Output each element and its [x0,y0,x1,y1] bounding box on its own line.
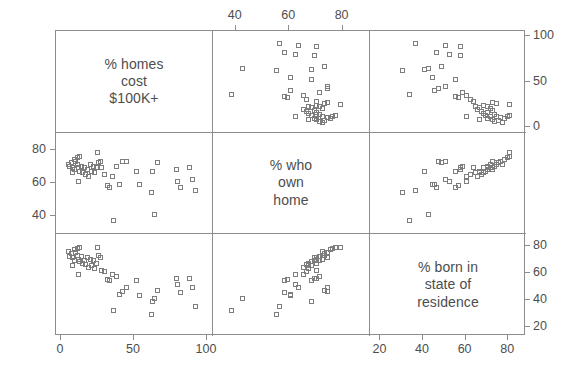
data-point [477,117,482,122]
data-point [175,179,180,184]
scatter-panel-bornstate-vs-ownhome [369,132,526,233]
data-point [274,312,279,317]
data-point [468,172,473,177]
variable-label-text: % born instate ofresidence [370,234,526,336]
data-point [413,188,418,193]
data-point [175,282,180,287]
data-point [322,64,327,69]
data-point [240,66,245,71]
data-point [322,288,327,293]
data-point [134,169,139,174]
data-point [481,103,486,108]
scatterplot-matrix-figure: % homescost$100K+% whoownhome% born inst… [0,0,582,379]
scatter-panel-cost100k-vs-bornstate [56,233,212,336]
data-point [494,101,499,106]
axis-tick [525,299,530,300]
data-point [107,185,112,190]
data-point [422,169,427,174]
data-point [117,292,122,297]
data-point [178,185,183,190]
data-point [407,218,412,223]
data-point [95,245,100,250]
data-point [407,92,412,97]
data-point [464,93,469,98]
data-point [477,169,482,174]
data-point [70,170,75,175]
tick-label-right-100: 100 [533,28,554,42]
tick-label-left-80: 80 [0,142,46,156]
axis-tick [133,335,134,340]
tick-label-right-0: 0 [533,119,540,133]
data-point [94,261,99,266]
data-point [443,43,448,48]
data-point [309,299,314,304]
data-point [490,100,495,105]
axis-tick [50,215,55,216]
data-point [117,182,122,187]
data-point [507,102,512,107]
data-point [86,174,91,179]
data-point [325,255,330,260]
tick-label-right-80: 80 [533,238,547,252]
data-point [102,172,107,177]
axis-tick [422,335,423,340]
tick-label-top-80: 80 [335,8,349,22]
data-point [426,212,431,217]
data-point [187,276,192,281]
data-point [288,88,293,93]
data-point [274,68,279,73]
data-point [174,276,179,281]
data-point [293,114,298,119]
data-point [282,290,287,295]
data-point [124,159,129,164]
tick-label-bottom-60: 60 [458,342,472,356]
data-point [314,268,319,273]
axis-tick [525,35,530,36]
data-point [333,113,338,118]
data-point [309,67,314,72]
data-point [422,67,427,72]
data-point [426,66,431,71]
data-point [193,304,198,309]
data-point [288,75,293,80]
scatter-panel-bornstate-vs-cost100k [369,31,526,132]
data-point [473,104,478,109]
data-point [77,245,82,250]
tick-label-left-40: 40 [0,208,46,222]
data-point [464,114,469,119]
data-point [240,296,245,301]
data-point [443,159,448,164]
data-point [439,160,444,165]
data-point [187,165,192,170]
data-point [296,285,301,290]
data-point [152,212,157,217]
data-point [439,64,444,69]
data-point [485,104,490,109]
data-point [443,177,448,182]
data-point [277,41,282,46]
data-point [400,68,405,73]
axis-tick [206,335,207,340]
axis-tick [50,182,55,183]
data-point [325,84,330,89]
data-point [494,160,499,165]
data-point [107,278,112,283]
data-point [95,150,100,155]
data-point [460,90,465,95]
data-point [481,165,486,170]
data-point [453,94,458,99]
data-point [111,218,116,223]
data-point [314,276,319,281]
tick-label-bottom-100: 100 [196,342,217,356]
data-point [293,272,298,277]
axis-tick [525,272,530,273]
axis-tick [525,245,530,246]
data-point [468,97,473,102]
data-point [453,77,458,82]
axis-tick [288,25,289,30]
data-point [434,50,439,55]
data-point [296,43,301,48]
tick-label-bottom-40: 40 [415,342,429,356]
axis-tick [379,335,380,340]
tick-label-right-60: 60 [533,265,547,279]
